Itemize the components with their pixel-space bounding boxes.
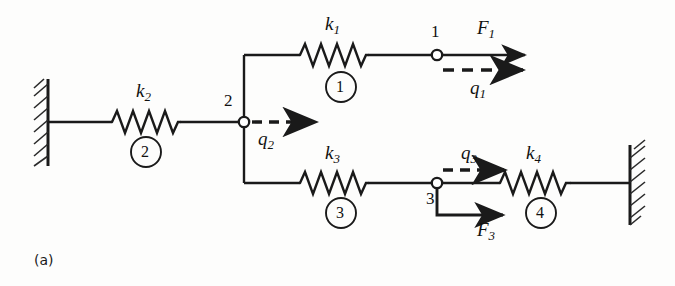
displacement-label-q3: q3 [461, 143, 477, 165]
spring-label-k2: k2 [136, 81, 151, 103]
spring-label-k4: k4 [526, 143, 541, 165]
force-label-F3: F3 [477, 220, 495, 242]
force-label-F1: F1 [477, 18, 495, 40]
node-marker-3 [432, 178, 442, 188]
node-marker-2 [239, 117, 249, 127]
node-label-1: 1 [431, 23, 440, 40]
spring-label-k1: k1 [325, 14, 340, 36]
node-marker-1 [432, 50, 442, 60]
element-number-3: 3 [336, 205, 344, 221]
displacement-label-q2: q2 [258, 129, 274, 151]
spring-k3 [300, 172, 368, 194]
force-arrow-F3 [437, 188, 503, 215]
left-wall [34, 79, 48, 166]
right-wall [630, 140, 645, 225]
node-label-2: 2 [224, 92, 233, 109]
spring-k2 [112, 111, 180, 133]
element-number-1: 1 [336, 79, 344, 95]
figure-container: k1 k2 k3 k4 1 2 3 4 1 2 3 F1 F3 q1 q2 q3… [0, 0, 675, 286]
left-wall-hatching [34, 79, 48, 166]
spring-k1 [300, 44, 368, 66]
displacement-label-q1: q1 [470, 78, 486, 100]
right-wall-hatching [630, 140, 645, 225]
node-label-3: 3 [426, 190, 435, 207]
spring-k4 [500, 172, 570, 194]
element-number-2: 2 [141, 144, 149, 160]
figure-caption: (a) [34, 253, 54, 267]
element-number-4: 4 [536, 205, 544, 221]
spring-label-k3: k3 [325, 143, 340, 165]
